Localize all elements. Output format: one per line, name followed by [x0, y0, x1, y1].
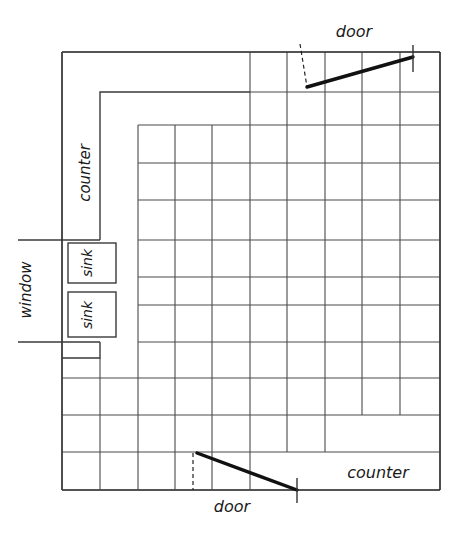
door-bottom: [193, 453, 297, 503]
counter-lower-jog: [62, 342, 100, 358]
label-window-left: window: [17, 261, 35, 319]
room-walls: [62, 52, 440, 490]
floor-plan-drawing: door door counter counter window sink si…: [0, 0, 459, 535]
label-door-top: door: [336, 22, 374, 41]
label-door-bottom: door: [214, 497, 252, 516]
label-sink-upper: sink: [79, 248, 95, 277]
door-top: [300, 44, 413, 87]
label-sink-lower: sink: [79, 300, 95, 329]
door-top-leaf: [307, 57, 413, 87]
label-counter-left: counter: [76, 143, 94, 202]
tile-grid-horizontal-lines: [62, 52, 440, 490]
floor-plan-canvas: door door counter counter window sink si…: [0, 0, 459, 535]
door-top-swing-dash: [300, 44, 307, 87]
tile-grid-vertical-lines: [62, 52, 440, 490]
label-counter-bottom-right: counter: [347, 463, 410, 482]
